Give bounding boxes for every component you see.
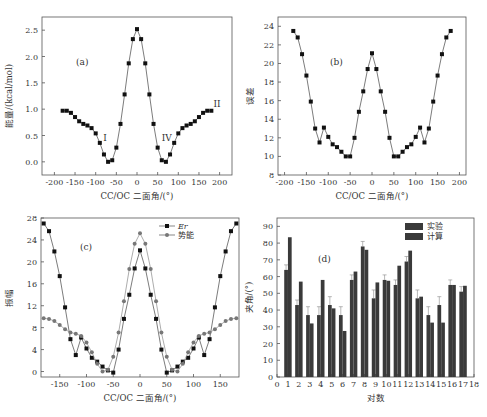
y-tick-label: 12 <box>27 302 37 311</box>
x-tick-label: 150 <box>213 380 228 389</box>
data-point <box>202 353 206 357</box>
data-point <box>138 248 142 252</box>
plot-frame <box>42 17 232 175</box>
data-point <box>159 348 163 352</box>
bar-experiment <box>394 285 398 377</box>
y-tick-label: 14 <box>264 115 274 124</box>
panel-c-amplitude-chart: -150-100-500501001500481216202428CC/OC 二… <box>4 214 239 403</box>
data-point <box>139 37 143 41</box>
data-point <box>168 152 172 156</box>
data-point <box>111 355 115 359</box>
x-tick-label: 0 <box>134 178 139 187</box>
y-tick-label: 24 <box>27 236 37 245</box>
panel-d-angle-bar-chart: 0123456789101112131415161718010203040506… <box>244 218 479 403</box>
data-point <box>143 61 147 65</box>
x-axis-label: CC/OC 二面角/(°) <box>104 393 177 403</box>
data-point <box>154 317 158 321</box>
data-point <box>383 110 387 114</box>
y-tick-label: 20 <box>264 59 274 68</box>
data-point <box>172 141 176 145</box>
data-point <box>193 119 197 123</box>
data-point <box>309 100 313 104</box>
x-tick-label: -100 <box>77 380 95 389</box>
data-point <box>401 150 405 154</box>
data-point <box>111 371 115 375</box>
bar-experiment <box>405 262 409 377</box>
data-point <box>370 51 374 55</box>
y-tick-label: 18 <box>264 78 274 87</box>
x-tick-label: 15 <box>436 380 446 389</box>
x-tick-label: 13 <box>414 380 424 389</box>
x-tick-label: 50 <box>162 380 172 389</box>
data-point <box>65 109 69 113</box>
data-point <box>73 115 77 119</box>
x-tick-label: 6 <box>340 380 345 389</box>
bar-calculated <box>310 323 314 377</box>
bar-experiment <box>372 298 376 377</box>
x-axis-label: CC/OC 二面角/(°) <box>101 191 174 201</box>
data-point <box>77 119 81 123</box>
legend-marker <box>165 233 169 237</box>
data-point <box>213 305 217 309</box>
y-tick-label: 28 <box>27 214 37 223</box>
x-tick-label: 150 <box>191 178 206 187</box>
bar-experiment <box>416 298 420 377</box>
y-tick-label: 40 <box>263 306 273 315</box>
bar-experiment <box>448 285 452 377</box>
legend-label: 实验 <box>427 221 443 231</box>
x-axis-label: CC/OC 二面角/(°) <box>336 191 409 201</box>
bar-experiment <box>306 315 310 377</box>
data-point <box>405 145 409 149</box>
data-point <box>135 27 139 31</box>
data-point <box>118 122 122 126</box>
bar-calculated <box>299 282 303 377</box>
legend-marker <box>165 224 169 228</box>
data-point <box>68 331 72 335</box>
data-point <box>69 111 73 115</box>
data-point <box>94 131 98 135</box>
data-point <box>117 331 121 335</box>
data-point <box>208 331 212 335</box>
data-point <box>209 109 213 113</box>
data-point <box>90 356 94 360</box>
data-point <box>418 126 422 130</box>
x-tick-label: -50 <box>110 178 123 187</box>
legend-swatch <box>405 233 423 240</box>
y-tick-label: 10 <box>263 356 273 365</box>
panel-b-error-chart: -200-150-100-500501001502008101214161820… <box>245 17 467 201</box>
data-point <box>74 353 78 357</box>
series-line <box>293 31 450 156</box>
data-point <box>114 146 118 150</box>
data-point <box>374 67 378 71</box>
data-point <box>361 89 365 93</box>
data-point <box>313 127 317 131</box>
data-point <box>149 267 153 271</box>
x-tick-label: 100 <box>171 178 186 187</box>
data-point <box>47 317 51 321</box>
data-point <box>296 35 300 39</box>
data-point <box>366 67 370 71</box>
data-point <box>335 145 339 149</box>
x-tick-label: 10 <box>381 380 391 389</box>
data-point <box>224 249 228 253</box>
x-tick-label: 8 <box>362 380 367 389</box>
data-point <box>106 368 110 372</box>
data-point <box>63 305 67 309</box>
data-point <box>427 127 431 131</box>
x-tick-label: 2 <box>296 380 301 389</box>
data-point <box>392 154 396 158</box>
x-tick-label: -50 <box>344 178 357 187</box>
y-tick-label: 12 <box>264 134 274 143</box>
data-point <box>197 334 201 338</box>
data-point <box>449 29 453 33</box>
data-point <box>229 229 233 233</box>
data-point <box>331 142 335 146</box>
bar-calculated <box>343 331 347 377</box>
x-tick-label: 0 <box>137 380 142 389</box>
data-point <box>79 334 83 338</box>
x-tick-label: 3 <box>307 380 312 389</box>
bar-experiment <box>328 305 332 377</box>
panel-label: (d) <box>318 254 331 264</box>
data-point <box>101 370 105 374</box>
legend-label: 计算 <box>427 231 443 241</box>
